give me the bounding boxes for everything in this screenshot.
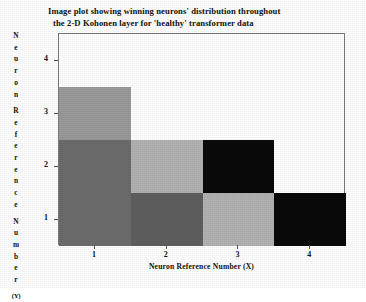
y-tick-mark-3 (54, 113, 58, 114)
y-axis-title-char-4: o (8, 77, 24, 89)
y-axis-title-char-7: R (8, 105, 24, 117)
y-axis-title-char-19: m (8, 239, 24, 251)
y-axis-title-char-21: e (8, 262, 24, 274)
y-axis-title-char-8: e (8, 117, 24, 129)
heatmap-cell-x2-y2 (131, 140, 203, 193)
y-tick-label-3: 3 (34, 107, 48, 116)
heatmap-cell-x3-y1 (203, 193, 275, 246)
y-axis-title-char-12: e (8, 164, 24, 176)
y-axis-title-char-3: r (8, 65, 24, 77)
x-tick-mark-3 (237, 245, 238, 249)
heatmap-cells (59, 34, 344, 244)
y-axis-title-char-1: e (8, 42, 24, 54)
y-tick-label-2: 2 (34, 160, 48, 169)
y-axis-title-char-13: n (8, 175, 24, 187)
title-line-2: the 2-D Kohonen layer for 'healthy' tran… (48, 18, 348, 30)
heatmap-cell-x1-y2 (59, 140, 131, 193)
y-axis-title-char-11: r (8, 152, 24, 164)
x-tick-label-2: 2 (156, 250, 176, 259)
x-tick-label-4: 4 (299, 250, 319, 259)
x-tick-mark-4 (309, 245, 310, 249)
y-tick-mark-4 (54, 60, 58, 61)
x-axis-title: Neuron Reference Number (X) (58, 262, 345, 271)
y-axis-title-char-0: N (8, 30, 24, 42)
heatmap-cell-x1-y1 (59, 193, 131, 246)
x-tick-label-1: 1 (84, 250, 104, 259)
y-tick-label-1: 1 (34, 213, 48, 222)
y-axis-title-char-14: c (8, 187, 24, 199)
y-axis-title-char-10: e (8, 140, 24, 152)
y-axis-title-char-24: (Y) (8, 291, 24, 302)
y-tick-mark-2 (54, 166, 58, 167)
title-line-1: Image plot showing winning neurons' dist… (48, 6, 280, 16)
heatmap-cell-x3-y2 (203, 140, 275, 193)
heatmap-cell-x2-y1 (131, 193, 203, 246)
y-axis-title-char-17: N (8, 216, 24, 228)
plot-area (58, 33, 345, 245)
y-axis-title-char-9: f (8, 129, 24, 141)
y-axis-title-char-2: u (8, 53, 24, 65)
y-axis-title-char-18: u (8, 227, 24, 239)
y-axis-title-char-20: b (8, 251, 24, 263)
page-title: Image plot showing winning neurons' dist… (48, 6, 348, 29)
y-tick-mark-1 (54, 219, 58, 220)
y-axis-title: Neuron Reference Number (Y) (8, 30, 24, 302)
x-tick-mark-2 (166, 245, 167, 249)
x-tick-label-3: 3 (227, 250, 247, 259)
x-tick-mark-1 (94, 245, 95, 249)
heatmap-cell-x1-y3 (59, 87, 131, 140)
y-tick-label-4: 4 (34, 54, 48, 63)
heatmap-cell-x4-y1 (274, 193, 346, 246)
